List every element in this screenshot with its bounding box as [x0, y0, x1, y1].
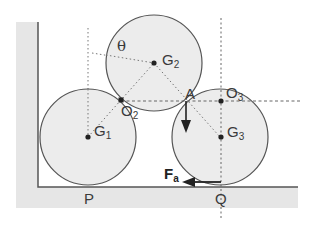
g3-dot	[218, 134, 223, 139]
diagram-canvas	[0, 0, 314, 226]
o2-label: O2	[121, 103, 138, 121]
q-label: Q	[215, 191, 227, 206]
o3-dot	[218, 98, 223, 103]
o3-label: O3	[226, 85, 243, 103]
arrow-left-icon	[182, 177, 195, 187]
g2-label: G2	[162, 52, 179, 70]
fa-label: Fa	[164, 166, 179, 184]
g2-dot	[151, 60, 156, 65]
theta-label: θ	[117, 39, 126, 54]
p-label: P	[84, 191, 94, 206]
g3-label: G3	[227, 124, 244, 142]
g1-dot	[85, 134, 90, 139]
g1-label: G1	[94, 123, 111, 141]
a-label: A	[185, 86, 195, 101]
